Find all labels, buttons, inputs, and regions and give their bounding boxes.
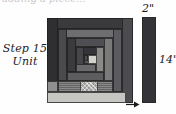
log-outer-right	[122, 18, 133, 103]
log-r3-left	[67, 38, 76, 72]
log-outer-bottom	[47, 92, 126, 103]
log-r3-right	[104, 38, 113, 81]
height-dimension-label: 14"	[159, 53, 176, 66]
log-r2-left	[58, 29, 67, 81]
log-outer-top	[47, 18, 133, 29]
log-cabin-block	[47, 18, 133, 103]
caption-line-1: Step 15	[3, 42, 47, 55]
log-bottom-hatch	[80, 81, 98, 92]
log-r3-bottom	[67, 72, 104, 81]
width-dimension-label: 2"	[142, 2, 154, 15]
log-center-square	[88, 55, 97, 64]
unit-caption: Step 15 Unit	[2, 42, 48, 68]
caption-line-2: Unit	[2, 55, 48, 68]
log-r2-right	[113, 29, 122, 92]
log-r4-right	[96, 47, 104, 72]
measure-strip	[142, 17, 156, 103]
log-r4-left	[76, 47, 84, 65]
log-outer-bottom-lt	[47, 81, 58, 92]
cropped-text: adding a piece...	[2, 0, 86, 4]
arrow-right-icon	[126, 100, 140, 109]
log-r4-bottom	[76, 64, 96, 72]
